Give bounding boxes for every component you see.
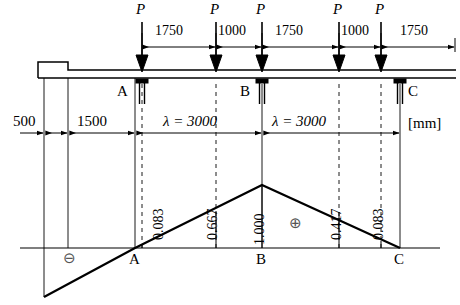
supports xyxy=(136,79,406,104)
load-label-1: P xyxy=(136,2,145,17)
span-label-500: 500 xyxy=(13,114,36,129)
baseline-label-B: B xyxy=(256,252,266,267)
figure-canvas: P P P P P 1750 1000 1750 1000 1750 A B C… xyxy=(0,0,460,305)
load-label-3: P xyxy=(256,2,265,17)
ordinate-label-1000: 1.000 xyxy=(253,214,267,246)
influence-line-curve xyxy=(44,185,400,297)
spacing-label-3: 1750 xyxy=(275,24,303,38)
support-label-B: B xyxy=(240,84,250,99)
sign-region-positive: ⊕ xyxy=(289,216,302,231)
ordinate-label-0083-left: 0.083 xyxy=(152,209,166,241)
spacing-label-5: 1750 xyxy=(400,24,428,38)
support-label-C: C xyxy=(408,84,418,99)
unit-label: [mm] xyxy=(408,116,441,131)
load-label-2: P xyxy=(210,2,219,17)
span-label-lambda-left: λ = 3000 xyxy=(163,114,217,129)
span-label-lambda-right: λ = 3000 xyxy=(272,114,326,129)
load-label-4: P xyxy=(333,2,342,17)
spacing-label-1: 1750 xyxy=(155,24,183,38)
baseline-label-C: C xyxy=(394,252,404,267)
baseline-label-A: A xyxy=(129,252,140,267)
sign-region-negative: ⊖ xyxy=(63,251,76,266)
ordinate-label-0417: 0.417 xyxy=(330,209,344,241)
spacing-label-4: 1000 xyxy=(341,24,369,38)
beam-outline xyxy=(38,62,456,78)
ordinate-label-0667: 0.667 xyxy=(206,209,220,241)
projection-lines xyxy=(44,78,400,297)
ordinate-label-0083-right: 0.083 xyxy=(372,209,386,241)
support-label-A: A xyxy=(117,84,128,99)
load-label-5: P xyxy=(375,2,384,17)
span-label-1500: 1500 xyxy=(77,114,107,129)
spacing-label-2: 1000 xyxy=(218,24,246,38)
